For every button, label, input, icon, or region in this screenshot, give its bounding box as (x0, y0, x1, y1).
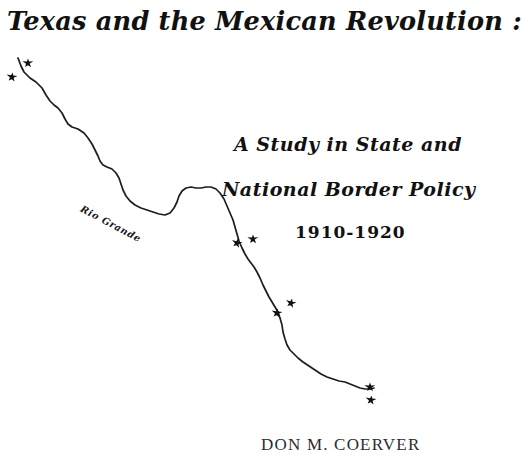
subtitle-line-1: A Study in State and (234, 133, 462, 155)
page-title: Texas and the Mexican Revolution : (7, 6, 522, 36)
star-marker-2 (7, 72, 18, 81)
rio-grande-label: Rio Grande (79, 203, 143, 244)
star-marker-7 (364, 382, 375, 391)
star-marker-8 (366, 395, 377, 404)
date-range: 1910-1920 (295, 222, 406, 242)
star-marker-6 (286, 299, 297, 308)
star-marker-3 (232, 239, 243, 248)
subtitle-line-2: National Border Policy (222, 178, 476, 200)
star-marker-1 (22, 58, 33, 67)
star-marker-4 (247, 234, 258, 243)
star-marker-5 (272, 308, 283, 317)
author-name: DON M. COERVER (261, 435, 420, 454)
